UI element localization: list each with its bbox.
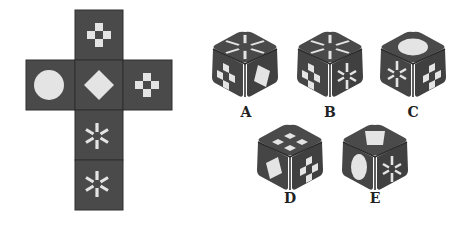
asterisk-icon — [226, 35, 264, 59]
checker-icon — [423, 63, 441, 90]
option-b-label[interactable]: B — [320, 104, 340, 120]
net-face-bottom — [75, 160, 123, 210]
option-a-cube[interactable] — [212, 32, 278, 97]
checker-icon — [272, 133, 308, 151]
option-c-label[interactable]: C — [403, 104, 423, 120]
cube-net — [0, 0, 200, 225]
net-face-center — [75, 60, 123, 110]
circle-icon — [34, 70, 64, 100]
net-face-left — [26, 60, 75, 110]
option-b-cube[interactable] — [297, 32, 363, 97]
option-a-label[interactable]: A — [236, 104, 256, 120]
option-d-label[interactable]: D — [280, 190, 300, 206]
diamond-icon — [365, 131, 385, 145]
option-d-cube[interactable] — [257, 125, 323, 190]
option-e-label[interactable]: E — [365, 190, 385, 206]
asterisk-icon — [338, 63, 356, 89]
checker-icon — [300, 156, 318, 183]
asterisk-icon — [383, 156, 401, 182]
checker-icon — [302, 63, 320, 90]
net-face-top — [75, 10, 123, 60]
checker-icon — [217, 63, 235, 90]
circle-icon — [398, 39, 428, 56]
net-face-right — [123, 60, 172, 110]
circle-icon — [351, 154, 367, 180]
asterisk-icon — [311, 35, 349, 59]
option-e-cube[interactable] — [342, 125, 408, 190]
net-face-below — [75, 110, 123, 160]
asterisk-icon — [388, 61, 406, 87]
diamond-icon — [266, 157, 282, 179]
option-c-cube[interactable] — [380, 32, 446, 97]
diamond-icon — [254, 65, 270, 87]
